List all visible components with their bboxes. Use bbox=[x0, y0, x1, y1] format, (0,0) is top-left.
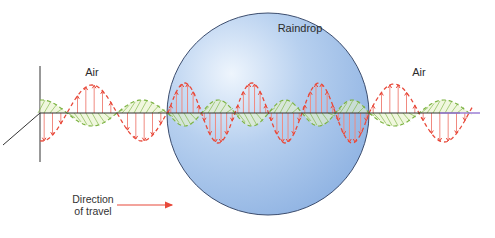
raindrop-wave-diagram: Air Raindrop Air Direction of travel bbox=[0, 0, 495, 238]
axes bbox=[3, 66, 40, 162]
direction-label: Direction of travel bbox=[68, 193, 118, 217]
air-left-label: Air bbox=[85, 66, 98, 78]
direction-label-line2: of travel bbox=[68, 205, 118, 217]
direction-label-line1: Direction bbox=[68, 193, 118, 205]
air-right-label: Air bbox=[412, 66, 425, 78]
raindrop-label: Raindrop bbox=[278, 22, 323, 34]
